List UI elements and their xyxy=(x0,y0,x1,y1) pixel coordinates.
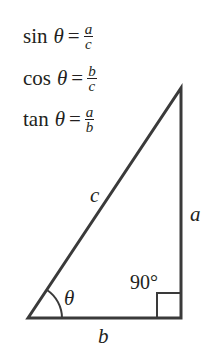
hypotenuse-label: c xyxy=(90,185,99,206)
right-angle-label: 90° xyxy=(130,272,158,292)
adjacent-side-label: b xyxy=(98,326,109,347)
angle-arc xyxy=(47,290,62,318)
opposite-side-label: a xyxy=(190,204,201,225)
triangle-outline xyxy=(28,88,181,318)
right-triangle xyxy=(0,0,216,359)
right-angle-marker xyxy=(157,293,181,318)
angle-theta-label: θ xyxy=(64,288,74,309)
